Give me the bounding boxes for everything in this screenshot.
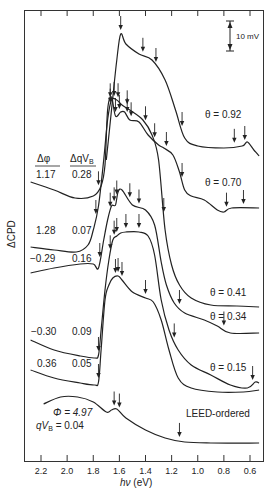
arrow-head-icon xyxy=(129,111,133,116)
x-tick-label: 0.6 xyxy=(244,466,257,476)
theta-092-label: θ = 0.92 xyxy=(205,109,242,120)
x-tick-label: 1.6 xyxy=(113,466,126,476)
arrow-head-icon xyxy=(137,223,141,228)
cpd-spectra-chart: 2.22.01.81.61.41.21.00.80.6 10 mV Δφ ΔqV… xyxy=(0,0,273,492)
arrow-head-icon xyxy=(143,115,147,120)
arrow-head-icon xyxy=(164,141,168,146)
row1-dphi: 1.17 xyxy=(36,169,56,180)
scale-bar-label: 10 mV xyxy=(236,32,260,41)
x-axis-label: hν (eV) xyxy=(120,477,152,488)
arrow-head-icon xyxy=(241,199,245,204)
bottom-ticks xyxy=(41,455,250,461)
arrow-head-icon xyxy=(117,403,121,408)
arrow-head-icon xyxy=(112,401,116,406)
leed-ordered-label: LEED-ordered xyxy=(186,408,250,419)
arrow-head-icon xyxy=(120,271,124,276)
theta-015-label: θ = 0.15 xyxy=(210,362,247,373)
arrow-head-icon xyxy=(96,180,100,185)
arrow-head-icon xyxy=(243,135,247,140)
arrow-head-icon xyxy=(154,57,158,62)
arrow-head-icon xyxy=(118,25,122,30)
x-tick-label: 0.8 xyxy=(218,466,231,476)
arrow-head-icon xyxy=(177,432,181,437)
arrow-head-icon xyxy=(224,202,228,207)
theta-034-label: θ = 0.34 xyxy=(210,311,247,322)
arrow-head-icon xyxy=(143,289,147,294)
arrow-head-icon xyxy=(250,375,254,380)
spectra-curves xyxy=(31,34,260,444)
arrow-head-icon xyxy=(128,192,132,197)
arrow-head-icon xyxy=(137,199,141,204)
arrow-head-icon xyxy=(172,332,176,337)
plot-frame xyxy=(25,11,264,462)
x-tick-label: 1.4 xyxy=(139,466,152,476)
arrow-head-icon xyxy=(177,299,181,304)
row5-dqvb: 0.05 xyxy=(72,358,92,369)
dqvb-header: ΔqVB xyxy=(70,153,94,165)
theta-041-label: θ = 0.41 xyxy=(210,287,247,298)
x-tick-label: 1.2 xyxy=(165,466,178,476)
scale-bar: 10 mV xyxy=(226,21,260,51)
arrow-head-icon xyxy=(112,196,116,201)
row4-dqvb: 0.09 xyxy=(72,326,92,337)
dphi-header: Δφ xyxy=(37,153,51,164)
row2-dqvb: 0.07 xyxy=(72,225,92,236)
arrow-head-icon xyxy=(162,207,166,212)
row1-dqvb: 0.28 xyxy=(72,169,92,180)
x-tick-label: 1.0 xyxy=(191,466,204,476)
x-tick-labels: 2.22.01.81.61.41.21.00.80.6 xyxy=(35,466,257,476)
phi-label: Φ = 4.97 xyxy=(53,407,93,418)
row4-dphi: −0.30 xyxy=(31,326,57,337)
x-tick-label: 2.2 xyxy=(35,466,48,476)
feature-arrows xyxy=(94,16,255,437)
row3-dphi: −0.29 xyxy=(30,253,56,264)
x-tick-label: 2.0 xyxy=(61,466,74,476)
arrow-head-icon xyxy=(124,223,128,228)
arrow-head-icon xyxy=(125,99,129,104)
row3-dqvb: 0.16 xyxy=(72,253,92,264)
arrow-head-icon xyxy=(141,47,145,52)
qvb-label: qVB = 0.04 xyxy=(36,420,84,432)
arrow-head-icon xyxy=(232,138,236,143)
arrow-head-icon xyxy=(117,104,121,109)
y-axis-label: ΔCPD xyxy=(6,220,17,248)
arrow-head-icon xyxy=(96,373,100,378)
theta-070-label: θ = 0.70 xyxy=(205,177,242,188)
row2-dphi: 1.28 xyxy=(36,225,56,236)
arrow-head-icon xyxy=(112,230,116,235)
spectrum-curve xyxy=(106,34,259,160)
x-tick-label: 1.8 xyxy=(87,466,100,476)
row5-dphi: 0.36 xyxy=(37,358,57,369)
